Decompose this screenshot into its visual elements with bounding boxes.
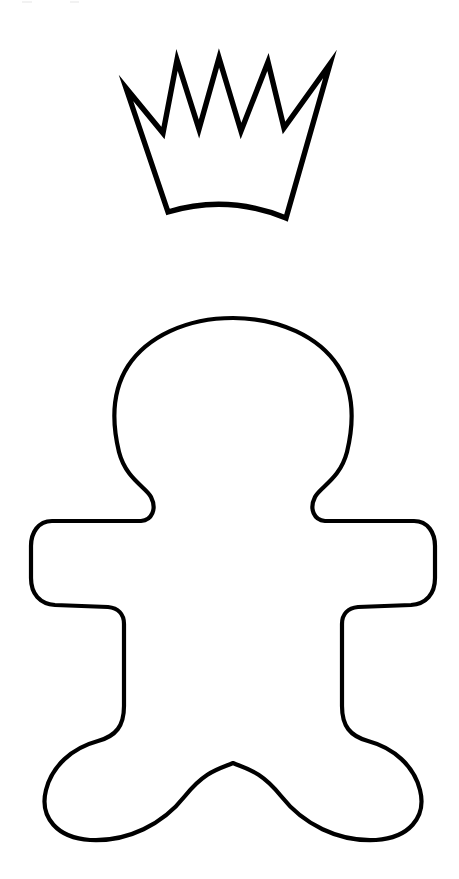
scan-speckle-left [22,1,32,3]
scan-speckle-right [70,1,79,3]
coloring-page-canvas [0,0,459,879]
page-background [0,0,459,879]
artwork-svg [0,0,459,879]
